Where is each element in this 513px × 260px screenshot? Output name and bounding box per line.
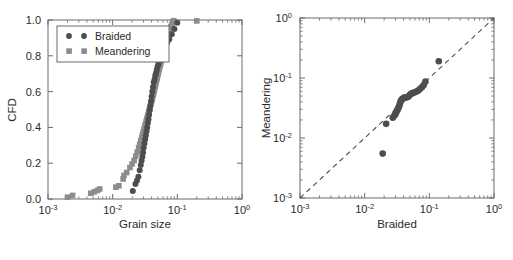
left-panel-svg: 10-310-210-1100 0.00.20.40.60.81.0 Braid… (0, 0, 256, 260)
marker-meandering (65, 194, 71, 200)
legend-marker-braided-b (81, 33, 87, 39)
y-tick-labels: 0.00.20.40.60.81.0 (26, 14, 41, 205)
marker-meandering (194, 18, 200, 24)
svg-text:10-3: 10-3 (273, 191, 292, 204)
y-tick-labels: 10-310-210-1100 (273, 11, 292, 204)
y-axis-title: Meandering (260, 78, 272, 139)
figure-root: 10-310-210-1100 0.00.20.40.60.81.0 Braid… (0, 0, 513, 260)
legend-marker-meandering-b (81, 48, 87, 54)
x-tick-labels: 10-310-210-1100 (39, 203, 251, 216)
svg-text:100: 100 (276, 11, 292, 24)
svg-text:0.6: 0.6 (26, 86, 41, 98)
right-panel-svg: 10-310-210-1100 10-310-210-1100 Braided … (256, 0, 513, 260)
legend-label-meandering: Meandering (95, 45, 151, 57)
marker-braided (135, 174, 141, 180)
svg-text:10-2: 10-2 (103, 203, 122, 216)
svg-text:10-2: 10-2 (273, 131, 292, 144)
marker-meandering (121, 173, 127, 179)
legend-marker-braided-a (66, 33, 72, 39)
svg-text:10-3: 10-3 (39, 203, 58, 216)
left-cfd-panel: 10-310-210-1100 0.00.20.40.60.81.0 Braid… (0, 0, 256, 260)
svg-text:10-2: 10-2 (355, 202, 374, 215)
marker-qq-point (422, 78, 429, 85)
marker-qq-point (435, 58, 442, 65)
right-qq-panel: 10-310-210-1100 10-310-210-1100 Braided … (256, 0, 513, 260)
marker-braided (137, 167, 143, 173)
svg-text:10-3: 10-3 (291, 202, 310, 215)
svg-text:10-1: 10-1 (420, 202, 439, 215)
marker-meandering (97, 186, 103, 192)
marker-qq-point (379, 150, 386, 157)
svg-text:0.2: 0.2 (26, 157, 41, 169)
marker-braided (171, 26, 177, 32)
svg-text:100: 100 (486, 202, 502, 215)
marker-qq-point (383, 121, 390, 128)
x-axis-title: Grain size (119, 218, 171, 230)
svg-text:100: 100 (234, 203, 250, 216)
marker-meandering (116, 183, 122, 189)
x-axis-title: Braided (377, 218, 417, 230)
legend-marker-meandering-a (66, 48, 72, 54)
svg-text:10-1: 10-1 (168, 203, 187, 216)
legend-label-braided: Braided (95, 30, 131, 42)
marker-braided (130, 188, 136, 194)
marker-meandering (70, 193, 76, 199)
marker-braided (169, 31, 175, 37)
marker-braided (174, 20, 180, 26)
y-axis-title: CFD (6, 98, 18, 122)
legend: Braided Meandering (57, 26, 169, 62)
x-tick-labels: 10-310-210-1100 (291, 202, 503, 215)
svg-text:0.4: 0.4 (26, 121, 41, 133)
svg-text:10-1: 10-1 (273, 71, 292, 84)
svg-text:0.8: 0.8 (26, 50, 41, 62)
svg-text:1.0: 1.0 (26, 14, 41, 26)
svg-text:0.0: 0.0 (26, 193, 41, 205)
